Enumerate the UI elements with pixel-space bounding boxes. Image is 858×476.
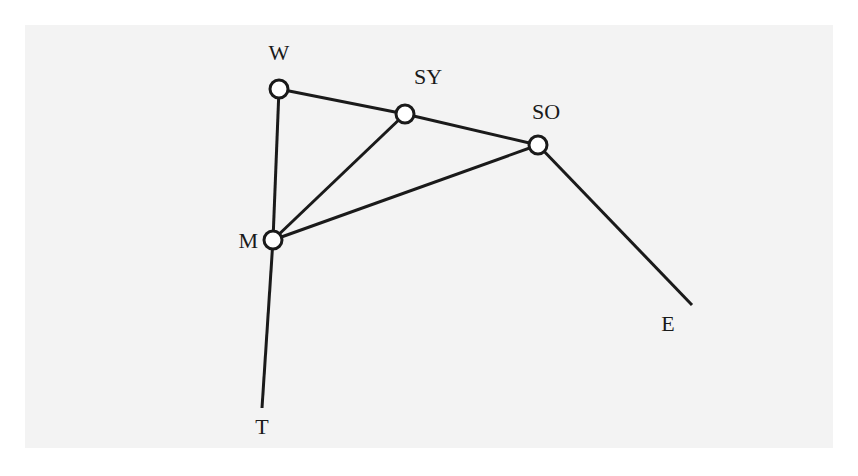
node-label-e: E bbox=[661, 311, 674, 336]
labels-layer: WSYSOMET bbox=[238, 40, 674, 439]
edge-w-m bbox=[273, 89, 279, 240]
nodes-layer bbox=[264, 80, 547, 249]
network-diagram: WSYSOMET bbox=[0, 0, 858, 476]
edges-layer bbox=[262, 89, 692, 408]
node-label-t: T bbox=[255, 414, 269, 439]
node-sy bbox=[396, 105, 414, 123]
node-label-so: SO bbox=[532, 99, 560, 124]
edge-w-sy bbox=[279, 89, 405, 114]
node-label-sy: SY bbox=[414, 64, 442, 89]
edge-sy-so bbox=[405, 114, 538, 145]
node-w bbox=[270, 80, 288, 98]
node-label-w: W bbox=[269, 40, 290, 65]
edge-so-m bbox=[273, 145, 538, 240]
edge-so-e bbox=[538, 145, 692, 305]
edge-m-t bbox=[262, 240, 273, 408]
node-m bbox=[264, 231, 282, 249]
node-so bbox=[529, 136, 547, 154]
node-label-m: M bbox=[238, 228, 258, 253]
edge-sy-m bbox=[273, 114, 405, 240]
